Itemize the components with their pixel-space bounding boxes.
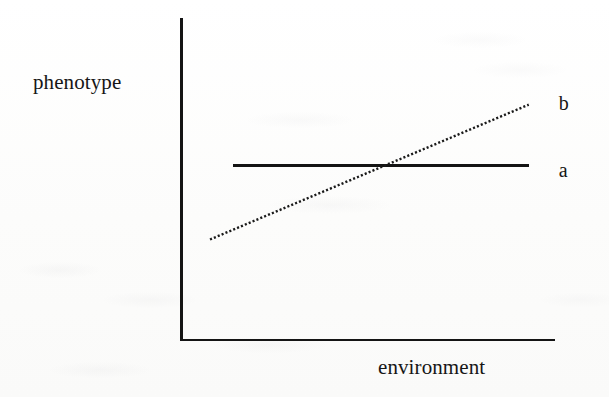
x-axis-label: environment xyxy=(378,355,485,380)
y-axis-label: phenotype xyxy=(33,70,121,95)
series-b-label: b xyxy=(559,92,569,115)
series-b-line xyxy=(0,0,609,397)
plot-area: phenotype environment b a xyxy=(0,0,609,397)
series-a-label: a xyxy=(559,159,568,182)
figure-canvas: phenotype environment b a xyxy=(0,0,609,397)
series-b-dotted-stroke xyxy=(210,105,529,240)
